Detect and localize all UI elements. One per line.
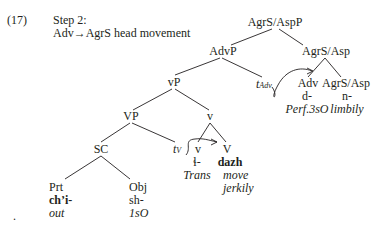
node-VP: VP — [123, 110, 138, 123]
agrs-gloss: limbily — [330, 103, 363, 116]
V-gloss-line2: jerkily — [223, 182, 254, 195]
obj-gloss: 1sO — [129, 207, 148, 220]
node-trace-v: tV — [173, 143, 181, 157]
v-gloss: Trans — [183, 169, 210, 182]
bullet-dot: . — [13, 210, 16, 223]
trace-sub: V — [176, 146, 181, 155]
node-vp-little: vP — [168, 76, 181, 89]
prt-gloss: out — [49, 207, 64, 220]
movement-arrow-v — [186, 139, 217, 155]
adv-gloss: Perf.3sO — [286, 103, 329, 116]
node-sc: SC — [94, 143, 109, 156]
node-v-bar: v — [207, 110, 213, 123]
node-agrs-aspp: AgrS/AspP — [248, 16, 303, 29]
node-advp: AdvP — [209, 45, 236, 58]
node-trace-adv: tAdv — [256, 78, 272, 92]
node-agrs-asp: AgrS/Asp — [302, 45, 350, 58]
trace-sub: Adv — [259, 81, 271, 90]
